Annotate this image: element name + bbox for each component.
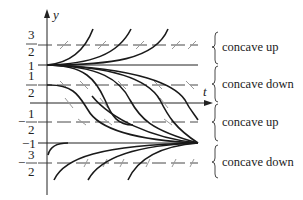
region-label-2: concave down — [222, 77, 295, 91]
brace-concave-up-bottom — [212, 104, 218, 141]
t-axis-label: t — [203, 84, 207, 99]
tick-neg-1-2-num: 1 — [28, 106, 35, 121]
t-axis-arrow-icon — [204, 100, 213, 106]
tick-neg-3-2-den: 2 — [28, 164, 35, 179]
region-label-3: concave up — [222, 115, 279, 129]
tick-1-2-den: 2 — [28, 85, 35, 100]
tick-1-2-num: 1 — [28, 68, 35, 83]
y-axis-arrow-icon — [44, 9, 50, 18]
y-axis-label: y — [51, 7, 59, 22]
brace-concave-down-bottom — [212, 145, 218, 178]
tick-3-2-den: 2 — [28, 44, 35, 59]
brace-concave-down-top — [212, 66, 218, 102]
region-braces — [212, 32, 218, 178]
slope-field-diagram: y t — [0, 0, 303, 200]
region-label-1: concave up — [222, 40, 279, 54]
tick-neg-1-2-den: 2 — [28, 122, 35, 137]
tick-neg-3-2-sign: − — [18, 155, 25, 170]
region-label-4: concave down — [222, 155, 295, 169]
tick-neg-3-2-num: 3 — [28, 147, 35, 162]
dashed-levels — [38, 45, 198, 163]
brace-concave-up-top — [212, 32, 218, 64]
tick-neg-1-2-sign: − — [18, 114, 25, 129]
tick-3-2-num: 3 — [28, 27, 35, 42]
